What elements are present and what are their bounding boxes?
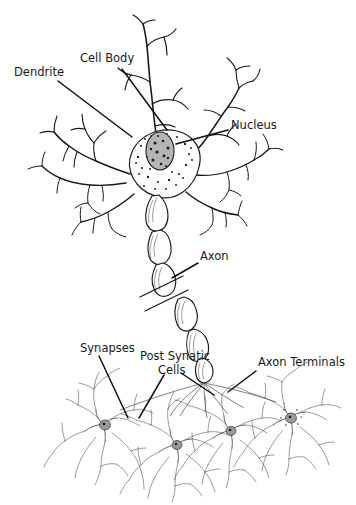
label-axon: Axon bbox=[200, 249, 229, 263]
neuron-diagram-figure: Dendrite Cell Body Nucleus Axon Synapses… bbox=[0, 0, 356, 505]
label-dendrite: Dendrite bbox=[14, 65, 64, 79]
label-post-synaptic-cells-line1: Post Synatic bbox=[140, 349, 210, 363]
nucleus-body bbox=[146, 132, 174, 170]
label-nucleus: Nucleus bbox=[231, 118, 277, 132]
neuron-diagram-canvas: Dendrite Cell Body Nucleus Axon Synapses… bbox=[0, 0, 356, 505]
label-cell-body: Cell Body bbox=[80, 51, 134, 65]
label-post-synaptic-cells-line2: Cells bbox=[158, 363, 186, 377]
label-axon-terminals: Axon Terminals bbox=[258, 355, 345, 369]
label-synapses: Synapses bbox=[80, 341, 135, 355]
